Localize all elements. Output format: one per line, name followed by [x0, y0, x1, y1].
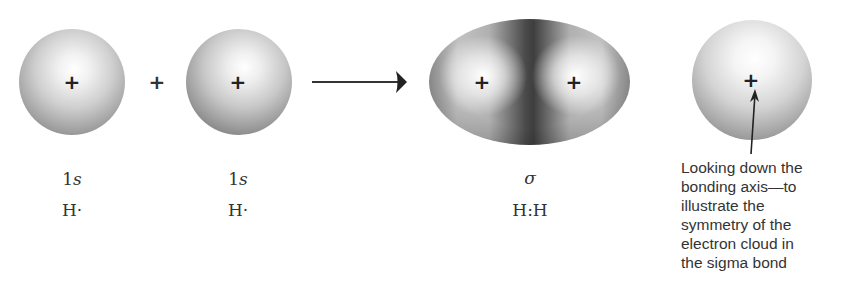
- orbital-label-atom1: 1s: [62, 171, 82, 188]
- species-label-h2: H:H: [512, 202, 547, 219]
- end-view-caption: Looking down the bonding axis—to illustr…: [681, 158, 854, 272]
- caption-line: the sigma bond: [681, 253, 854, 272]
- caption-line: electron cloud in: [681, 234, 854, 253]
- reaction-arrow-icon: [308, 68, 410, 96]
- caption-line: bonding axis—to: [681, 177, 854, 196]
- caption-line: illustrate the: [681, 196, 854, 215]
- orbital-label-sigma: σ: [524, 170, 536, 187]
- caption-line: Looking down the: [681, 158, 854, 177]
- nucleus-plus-icon: +: [474, 72, 491, 92]
- addition-operator: +: [149, 72, 166, 92]
- nucleus-plus-icon: +: [64, 72, 81, 92]
- orbital-label-atom2: 1s: [228, 171, 248, 188]
- species-label-atom1: H·: [62, 202, 82, 219]
- nucleus-plus-icon: +: [230, 72, 247, 92]
- sigma-bond-electron-cloud: [429, 19, 630, 145]
- caption-line: symmetry of the: [681, 215, 854, 234]
- pointer-arrow-icon: [742, 86, 762, 156]
- species-label-atom2: H·: [228, 202, 248, 219]
- nucleus-plus-icon: +: [566, 72, 583, 92]
